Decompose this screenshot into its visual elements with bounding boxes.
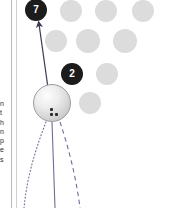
ball-number-label: 2 <box>69 69 75 79</box>
numbered-ball-2: 2 <box>61 63 83 85</box>
numbered-ball-7: 7 <box>25 0 47 21</box>
cue-ball <box>33 84 71 122</box>
aim-arrow <box>39 24 48 88</box>
center-path-line <box>52 122 55 208</box>
billiards-diagram: n t h n p e s 7 2 <box>0 0 170 208</box>
deflection-curve-right-path <box>60 122 80 208</box>
cue-ball-spin-mark <box>55 113 58 116</box>
ball-number-label: 7 <box>33 5 39 15</box>
trajectory-overlay <box>0 0 170 208</box>
cue-ball-spin-mark <box>50 113 53 116</box>
spin-curve-left-path <box>24 122 46 208</box>
cue-ball-spin-mark <box>50 108 53 111</box>
